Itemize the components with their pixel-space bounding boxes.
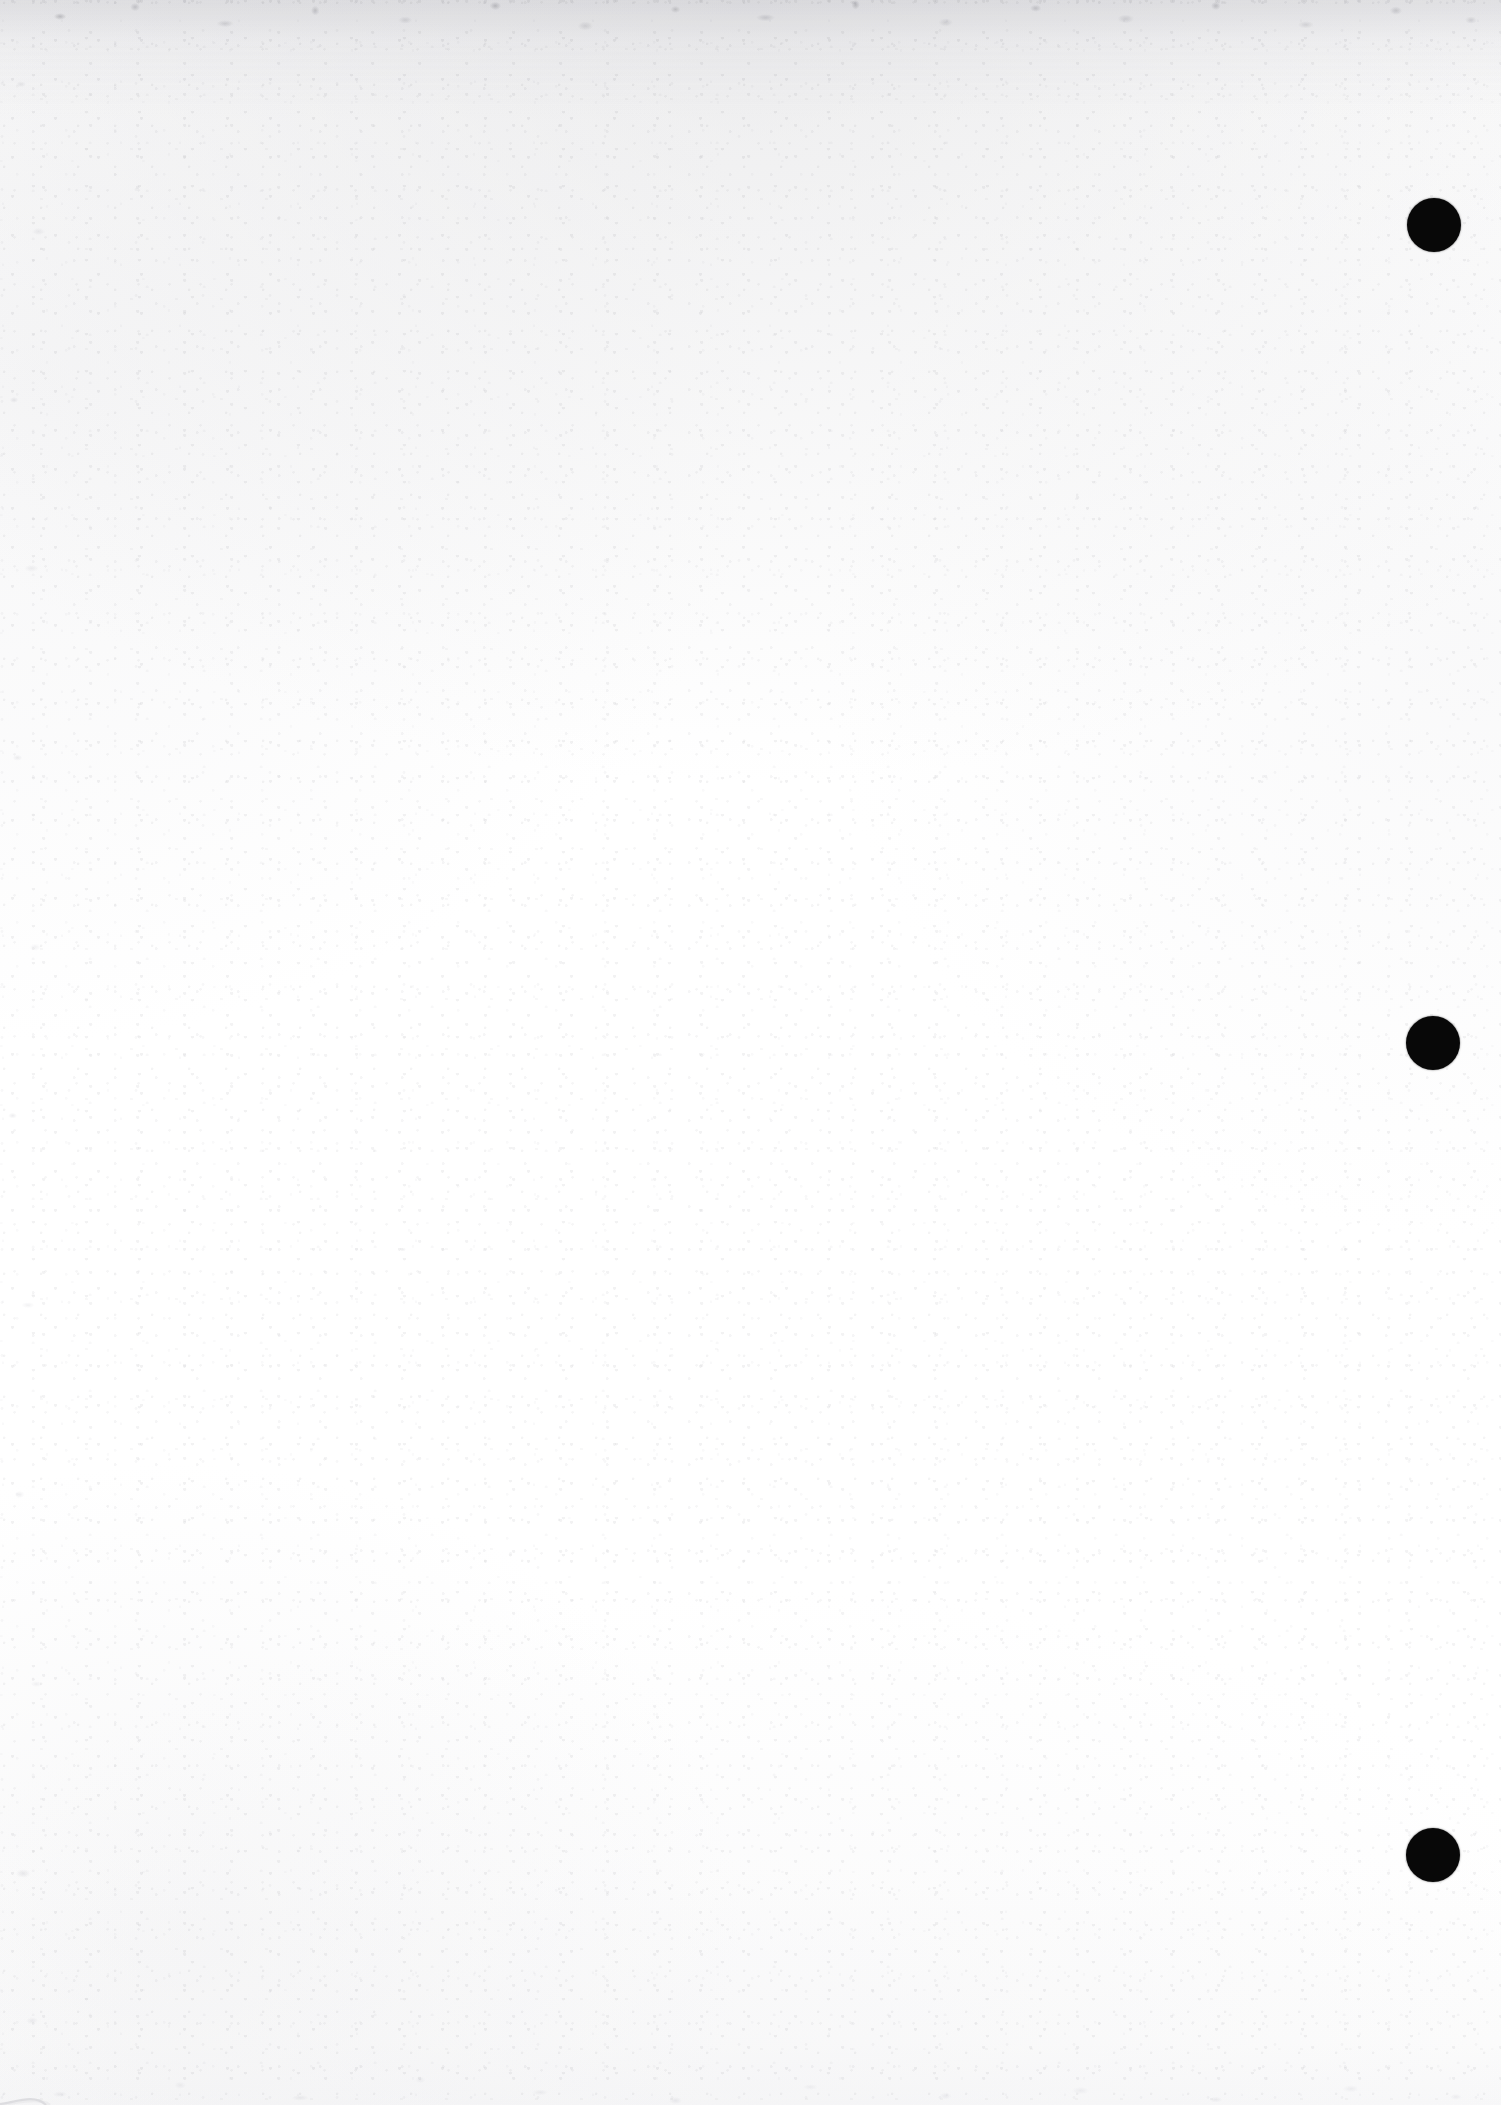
left-edge-scanner-noise: [0, 0, 70, 2105]
scanned-page: [0, 0, 1501, 2105]
registration-dot-2: [1406, 1016, 1460, 1070]
bottom-edge-scanner-noise: [0, 2015, 1501, 2105]
paper-grain-texture: [0, 0, 1501, 2105]
top-edge-scanner-noise: [0, 0, 1501, 118]
registration-dot-3: [1406, 1828, 1460, 1882]
registration-dot-1: [1407, 198, 1461, 252]
